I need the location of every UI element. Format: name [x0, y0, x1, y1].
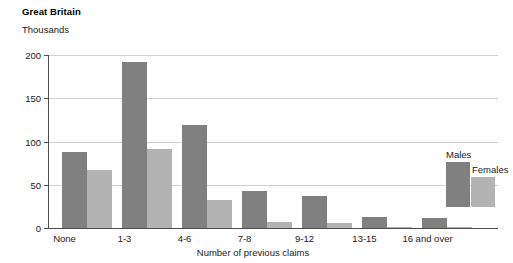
bar-group-1-3: [122, 55, 175, 228]
bar-group-7-8: [242, 55, 295, 228]
x-tick-label-13-15: 13-15: [337, 233, 392, 244]
plot-area: 200 150 100 50 0: [48, 55, 498, 228]
x-axis-title: Number of previous claims: [0, 247, 506, 258]
bar-group-none: [62, 55, 115, 228]
bar-females-4-6[interactable]: [207, 200, 232, 228]
x-tick-label-1-3: 1-3: [97, 233, 152, 244]
bar-males-13-15[interactable]: [362, 217, 387, 228]
bar-group-13-15: [362, 55, 415, 228]
y-tick-label-100: 100: [25, 136, 41, 147]
bar-females-13-15[interactable]: [387, 227, 412, 228]
bar-females-1-3[interactable]: [147, 149, 172, 228]
bar-males-16-and-over[interactable]: [422, 218, 447, 228]
bar-males-4-6[interactable]: [182, 125, 207, 228]
bar-females-7-8[interactable]: [267, 222, 292, 228]
bar-group-4-6: [182, 55, 235, 228]
x-tick-label-7-8: 7-8: [217, 233, 272, 244]
legend-swatch-males: [446, 162, 470, 207]
legend-label-females: Females: [472, 164, 508, 175]
y-tick-mark-0: [44, 228, 48, 229]
bar-males-7-8[interactable]: [242, 191, 267, 228]
x-axis-line: [44, 228, 498, 229]
bar-males-1-3[interactable]: [122, 62, 147, 228]
bar-females-16-and-over[interactable]: [447, 227, 472, 228]
chart-subtitle-units: Thousands: [22, 24, 69, 35]
bar-females-9-12[interactable]: [327, 223, 352, 228]
bar-males-none[interactable]: [62, 152, 87, 228]
x-tick-label-16-and-over: 16 and over: [390, 233, 465, 244]
legend-swatch-females: [471, 177, 495, 207]
bar-series-container: [48, 55, 498, 228]
bar-females-none[interactable]: [87, 170, 112, 228]
x-tick-label-none: None: [37, 233, 92, 244]
bar-males-9-12[interactable]: [302, 196, 327, 228]
legend-label-males: Males: [446, 149, 471, 160]
chart-title: Great Britain: [22, 6, 81, 17]
x-tick-label-4-6: 4-6: [157, 233, 212, 244]
y-tick-label-150: 150: [25, 93, 41, 104]
y-tick-label-50: 50: [30, 180, 41, 191]
bar-group-9-12: [302, 55, 355, 228]
x-tick-label-9-12: 9-12: [277, 233, 332, 244]
y-tick-label-0: 0: [36, 223, 41, 234]
chart-legend: Males Females: [446, 147, 513, 207]
y-tick-label-200: 200: [25, 50, 41, 61]
